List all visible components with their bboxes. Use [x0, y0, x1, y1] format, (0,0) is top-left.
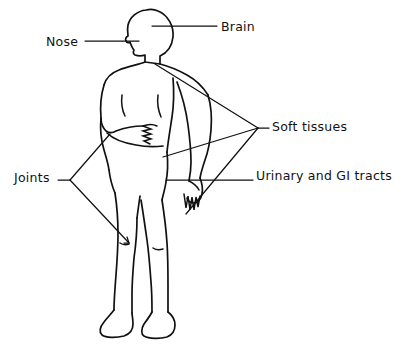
left-leg-outer	[114, 193, 118, 310]
right-arm-inner	[177, 82, 191, 181]
chest-detail-left	[122, 95, 125, 116]
right-leg-inner	[141, 200, 152, 312]
label-urinary-gi-tracts: Urinary and GI tracts	[256, 170, 392, 183]
left-thumb	[143, 125, 157, 127]
right-foot-outline	[142, 312, 175, 338]
human-figure-outline	[100, 9, 211, 338]
right-leg-outer	[162, 200, 168, 312]
label-soft-tissues: Soft tissues	[272, 121, 347, 134]
label-nose: Nose	[46, 36, 78, 49]
anatomy-diagram: Brain Nose Soft tissues Urinary and GI t…	[0, 0, 400, 348]
label-joints: Joints	[14, 172, 50, 185]
leader-line-soft-tissues-thigh	[186, 128, 258, 214]
left-hand-fingers	[143, 126, 151, 144]
left-leg-inner	[132, 218, 137, 313]
chest-detail-right	[158, 95, 161, 117]
leader-line-soft-tissues-shoulder	[155, 64, 258, 128]
torso-right-contour	[167, 78, 174, 152]
left-foot-outline	[100, 310, 133, 337]
right-arm-outer	[200, 95, 211, 178]
hip-right-contour	[162, 152, 168, 200]
right-thumb	[189, 181, 199, 190]
hip-left-contour	[109, 170, 115, 193]
crotch-divide	[137, 196, 140, 218]
left-forearm-underside	[107, 133, 163, 147]
right-knee-detail	[153, 248, 163, 250]
label-brain: Brain	[221, 21, 255, 34]
head-outline	[126, 9, 174, 64]
neck-shoulders-outline	[104, 62, 145, 85]
leader-line-joints-elbow	[70, 134, 110, 180]
leader-line-joints-knee	[70, 180, 129, 243]
right-shoulder-outline	[160, 64, 208, 95]
